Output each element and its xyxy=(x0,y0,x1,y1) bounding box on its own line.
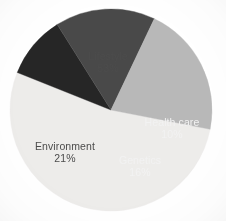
pie-chart: Lifestyle 53% Health care 10% Genetics 1… xyxy=(0,0,226,221)
pie-chart-canvas xyxy=(0,0,226,221)
pie-slices-group xyxy=(10,9,212,211)
